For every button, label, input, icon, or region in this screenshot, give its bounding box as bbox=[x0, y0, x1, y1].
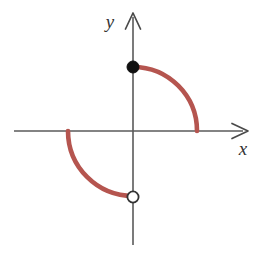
y-axis-label: y bbox=[104, 11, 115, 32]
graph-figure: y x bbox=[0, 0, 263, 254]
third-quadrant-quarter-arc bbox=[68, 131, 133, 196]
first-quadrant-quarter-arc bbox=[133, 67, 197, 131]
coordinate-plane-svg: y x bbox=[0, 0, 263, 254]
open-endpoint-circle bbox=[127, 191, 138, 202]
filled-endpoint-dot bbox=[127, 61, 139, 73]
x-axis-label: x bbox=[238, 138, 248, 159]
